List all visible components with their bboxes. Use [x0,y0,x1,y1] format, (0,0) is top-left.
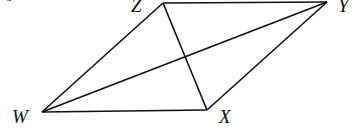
clipped-caption: igure [2,0,29,1]
vertex-label-x: X [218,106,232,127]
segment-WZ [42,3,163,112]
vertex-label-z: Z [131,0,142,16]
diagonal-ZX [163,3,207,110]
vertex-label-y: Y [338,0,351,16]
parallelogram-diagram: igure Z Y W X [0,0,353,138]
segment-XW [42,110,207,112]
vertex-label-w: W [12,106,30,127]
segment-ZY [163,2,327,3]
segment-YX [207,2,327,110]
